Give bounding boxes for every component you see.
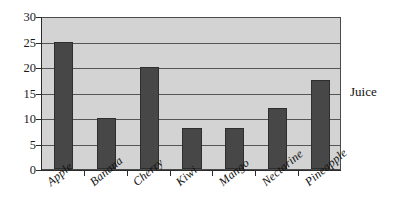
x-axis-tick bbox=[170, 171, 171, 176]
y-axis-tick bbox=[36, 68, 41, 69]
bar bbox=[182, 128, 201, 169]
y-axis-tick bbox=[36, 94, 41, 95]
y-axis-tick bbox=[36, 119, 41, 120]
y-axis-tick-label: 10 bbox=[0, 113, 36, 126]
y-axis-tick-label: 5 bbox=[0, 139, 36, 152]
bar bbox=[54, 42, 73, 170]
gridline bbox=[42, 68, 340, 69]
y-axis-tick bbox=[36, 43, 41, 44]
gridline bbox=[42, 119, 340, 120]
bar-chart-figure: 051015202530 AppleBananaCherryKiwiMangoN… bbox=[0, 0, 395, 217]
x-axis-tick bbox=[255, 171, 256, 176]
bar bbox=[140, 67, 159, 169]
x-axis-tick bbox=[298, 171, 299, 176]
y-axis-tick-label: 30 bbox=[0, 11, 36, 24]
x-axis-tick bbox=[84, 171, 85, 176]
y-axis-tick-label: 15 bbox=[0, 88, 36, 101]
y-axis-tick bbox=[36, 145, 41, 146]
legend-entry-juice: Juice bbox=[350, 84, 377, 100]
y-axis-tick-label: 25 bbox=[0, 37, 36, 50]
x-axis-tick bbox=[127, 171, 128, 176]
y-axis-tick-label: 0 bbox=[0, 164, 36, 177]
gridline bbox=[42, 43, 340, 44]
x-axis-tick bbox=[212, 171, 213, 176]
y-axis-line bbox=[41, 17, 42, 170]
y-axis-tick bbox=[36, 17, 41, 18]
y-axis-tick-label: 20 bbox=[0, 62, 36, 75]
gridline bbox=[42, 94, 340, 95]
